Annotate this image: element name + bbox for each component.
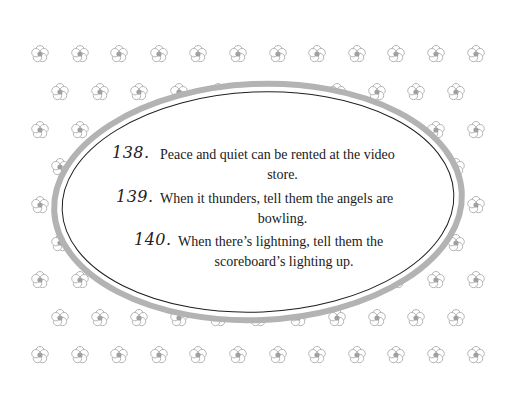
entry-number: 140.	[134, 230, 172, 250]
entry-text-line-2: bowling.	[160, 209, 405, 229]
entry-text-line-1: Peace and quiet can be rented at the vid…	[160, 145, 395, 165]
entry-text-line-2: scoreboard’s lighting up.	[178, 252, 390, 272]
page: 138. Peace and quiet can be rented at th…	[0, 0, 509, 398]
entry-text-line-1: When there’s lightning, tell them the	[178, 232, 383, 252]
entry-number: 138.	[112, 143, 150, 163]
entry-text-line-2: store.	[160, 165, 405, 185]
entry-text-line-1: When it thunders, tell them the angels a…	[160, 189, 393, 209]
entry-number: 139.	[116, 187, 154, 207]
